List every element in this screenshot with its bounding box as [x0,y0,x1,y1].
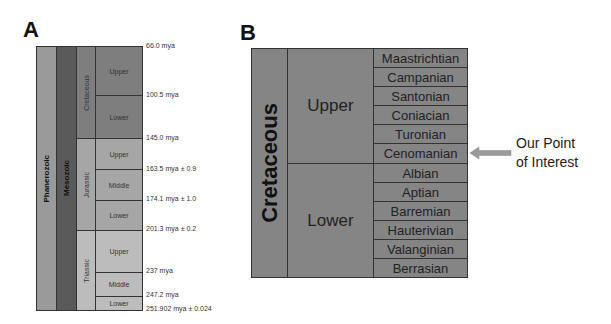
epoch-cretaceous-lower: Lower [95,95,143,139]
eon-label: Phanerozoic [42,155,51,203]
period-cretaceous-b: Cretaceous [251,48,288,278]
stage-coniacian: Coniacian [373,105,468,125]
stage-barremian: Barremian [373,201,468,221]
epoch-upper-b: Upper [287,48,374,164]
stage-berrasian: Berrasian [373,258,468,278]
annotation-line-2: of Interest [516,153,578,172]
date-label: 100.5 mya [146,91,179,98]
period-triassic: Triassic [76,230,96,311]
panel-b-label: B [240,20,256,46]
period-label: Jurassic [83,172,90,198]
date-label: 201.3 mya ± 0.2 [146,225,196,232]
annotation-line-1: Our Point [516,134,578,153]
date-label: 145.0 mya [146,134,179,141]
panel-a-label: A [23,17,39,43]
date-label: 163.5 mya ± 0.9 [146,165,196,172]
epoch-triassic-upper: Upper [95,230,143,273]
stage-aptian: Aptian [373,182,468,202]
eon-phanerozoic: Phanerozoic [36,46,57,311]
epoch-triassic-lower: Lower [95,296,143,311]
epoch-jurassic-lower: Lower [95,200,143,231]
date-label: 237 mya [146,267,173,274]
annotation-point-of-interest: Our Point of Interest [516,134,578,172]
stage-maastrichtian: Maastrichtian [373,48,468,68]
date-label: 247.2 mya [146,291,179,298]
stage-valanginian: Valanginian [373,239,468,259]
epoch-jurassic-middle: Middle [95,169,143,201]
date-label: 251.902 mya ± 0.024 [146,305,212,312]
epoch-lower-b: Lower [287,163,374,278]
stage-albian: Albian [373,163,468,183]
stage-turonian: Turonian [373,124,468,144]
epoch-cretaceous-upper: Upper [95,46,143,96]
arrow-left-icon [470,146,512,160]
era-mesozoic: Mesozoic [56,46,77,311]
period-label: Cretaceous [83,75,90,111]
stage-campanian: Campanian [373,67,468,87]
date-label: 66.0 mya [146,42,175,49]
stage-hauterivian: Hauterivian [373,220,468,240]
date-label: 174.1 mya ± 1.0 [146,195,196,202]
period-label: Cretaceous [257,103,283,223]
period-label: Triassic [83,259,90,283]
epoch-jurassic-upper: Upper [95,138,143,170]
period-cretaceous: Cretaceous [76,46,96,139]
epoch-triassic-middle: Middle [95,272,143,297]
era-label: Mesozoic [62,160,71,196]
stage-cenomanian: Cenomanian [373,143,468,164]
stage-santonian: Santonian [373,86,468,106]
period-jurassic: Jurassic [76,138,96,231]
